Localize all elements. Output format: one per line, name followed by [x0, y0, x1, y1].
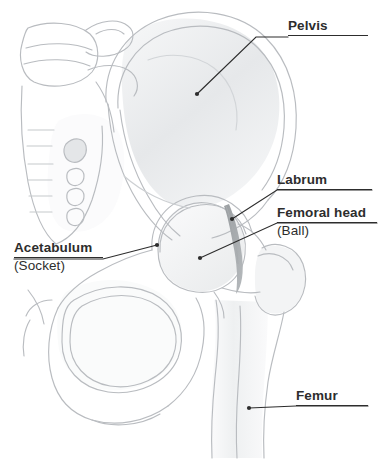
callout-femur: Femur: [296, 388, 368, 406]
pubis-shading: [57, 280, 182, 390]
callout-acetabulum: Acetabulum (Socket): [14, 240, 103, 274]
hip-anatomy-figure: Pelvis Labrum Femoral head (Ball) Acetab…: [0, 0, 379, 461]
callout-femoral-head: Femoral head (Ball): [277, 205, 377, 239]
pubic-body-line: [23, 320, 30, 356]
leader-dot-acetabulum: [155, 243, 159, 247]
sacral-foramen-1: [64, 139, 86, 162]
callout-labrum: Labrum: [277, 172, 372, 190]
callout-underline-femur: [296, 405, 368, 406]
lumbar-vertebra-outline: [21, 23, 98, 86]
femoral-neck-inferior-outline: [222, 288, 260, 293]
vertebra-body-line-2: [24, 60, 90, 66]
callout-label-pelvis: Pelvis: [288, 18, 368, 34]
callout-pelvis: Pelvis: [288, 18, 368, 36]
callout-sublabel-acetabulum: (Socket): [14, 258, 103, 274]
leader-dot-femoral-head: [198, 256, 202, 260]
femur-shaft-shading: [211, 300, 269, 458]
callout-label-femur: Femur: [296, 388, 368, 404]
callout-underline-labrum: [277, 189, 372, 190]
ilium-shading: [122, 19, 280, 208]
callout-label-labrum: Labrum: [277, 172, 372, 188]
leader-dot-pelvis: [195, 92, 199, 96]
callout-underline-pelvis: [288, 35, 368, 36]
leader-line-femur: [249, 406, 368, 408]
callout-sublabel-femoral-head: (Ball): [277, 223, 377, 239]
callout-label-femoral-head: Femoral head: [277, 205, 377, 221]
coccyx-outline: [28, 290, 44, 324]
callout-label-acetabulum: Acetabulum: [14, 240, 103, 256]
leader-dot-femur: [247, 406, 251, 410]
leader-dot-labrum: [230, 217, 234, 221]
transverse-process-inner: [96, 30, 124, 35]
vertebra-body-line-1: [26, 44, 92, 50]
